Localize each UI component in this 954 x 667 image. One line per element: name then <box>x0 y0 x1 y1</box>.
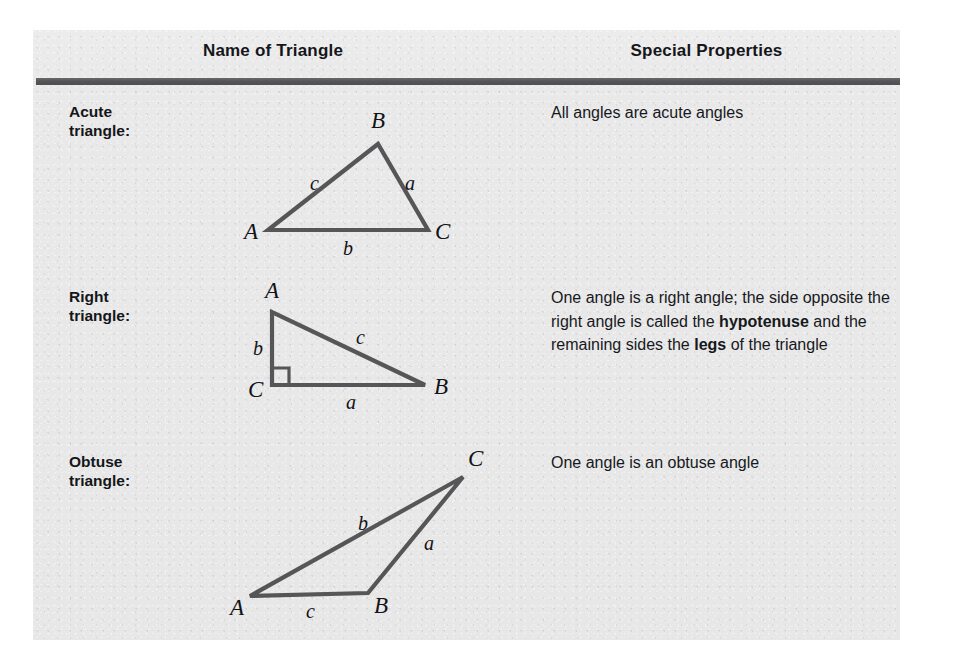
row-label-obtuse: Obtuse triangle: <box>69 452 130 490</box>
right-vertex-label-c: C <box>248 377 264 402</box>
right-triangle-svg: A C B b c a <box>236 280 466 430</box>
obtuse-triangle-svg: A B C b a c <box>228 450 498 630</box>
right-side-label-c: c <box>356 326 365 348</box>
acute-vertex-label-a: A <box>242 219 259 244</box>
acute-side-label-b: b <box>343 237 353 259</box>
row-label-acute-line1: Acute <box>69 102 130 121</box>
header-divider-rule <box>36 78 900 85</box>
column-header-name-of-triangle: Name of Triangle <box>33 41 513 61</box>
obtuse-vertex-label-a: A <box>228 595 245 620</box>
row-label-right: Right triangle: <box>69 287 130 325</box>
right-vertex-label-b: B <box>434 374 448 399</box>
row-property-obtuse: One angle is an obtuse angle <box>551 451 891 475</box>
right-vertex-label-a: A <box>263 280 280 303</box>
row-label-right-line2: triangle: <box>69 306 130 325</box>
right-side-label-b: b <box>253 337 263 359</box>
acute-triangle-outline <box>268 144 428 230</box>
row-label-obtuse-line1: Obtuse <box>69 452 130 471</box>
obtuse-side-label-b: b <box>358 512 368 534</box>
column-header-special-properties: Special Properties <box>513 41 900 61</box>
acute-triangle-svg: A B C c a b <box>238 100 468 270</box>
obtuse-side-label-a: a <box>424 532 434 554</box>
obtuse-vertex-label-c: C <box>468 450 484 471</box>
property-emphasis-term: hypotenuse <box>719 313 809 330</box>
acute-side-label-c: c <box>310 172 319 194</box>
acute-side-label-a: a <box>405 172 415 194</box>
property-emphasis-term: legs <box>694 336 726 353</box>
row-label-right-line1: Right <box>69 287 130 306</box>
figure-acute-triangle: A B C c a b <box>238 100 468 270</box>
row-label-acute: Acute triangle: <box>69 102 130 140</box>
row-property-right: One angle is a right angle; the side opp… <box>551 286 891 357</box>
obtuse-side-label-c: c <box>306 600 315 622</box>
right-side-label-a: a <box>346 391 356 413</box>
acute-vertex-label-b: B <box>371 108 385 133</box>
obtuse-vertex-label-b: B <box>374 593 388 618</box>
row-label-acute-line2: triangle: <box>69 121 130 140</box>
right-triangle-outline <box>272 312 425 385</box>
right-angle-marker-icon <box>272 368 289 385</box>
row-property-acute: All angles are acute angles <box>551 101 891 125</box>
acute-vertex-label-c: C <box>435 219 451 244</box>
figure-right-triangle: A C B b c a <box>236 280 466 430</box>
row-label-obtuse-line2: triangle: <box>69 471 130 490</box>
property-text-run: of the triangle <box>726 336 827 353</box>
figure-obtuse-triangle: A B C b a c <box>228 450 498 630</box>
